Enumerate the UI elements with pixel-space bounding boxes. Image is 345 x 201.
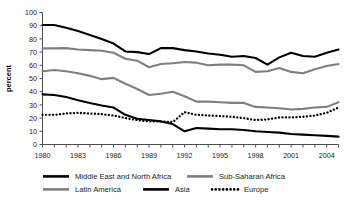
y-axis-title-group: percent [4, 64, 13, 92]
chart-canvas: percent 0102030405060708090100 198019831… [0, 0, 345, 201]
series-line [43, 48, 339, 73]
legend-item: Middle East and North Africa [43, 172, 172, 181]
y-axis-ticks-group: 0102030405060708090100 [25, 8, 43, 149]
y-tick-label: 70 [29, 48, 37, 57]
x-tick-label: 1998 [248, 151, 264, 160]
x-tick-label: 1983 [70, 151, 86, 160]
legend-group: Middle East and North AfricaSub-Saharan … [43, 172, 286, 194]
series-line [43, 94, 339, 136]
y-tick-label: 0 [33, 140, 37, 149]
y-tick-label: 60 [29, 61, 37, 70]
series-line [43, 25, 339, 65]
x-tick-label: 1995 [212, 151, 228, 160]
legend-label: Europe [244, 185, 269, 194]
y-tick-label: 30 [29, 101, 37, 110]
y-tick-label: 50 [29, 74, 37, 83]
legend-label: Sub-Saharan Africa [219, 172, 286, 181]
x-tick-label: 2004 [319, 151, 335, 160]
legend-label: Asia [175, 185, 191, 194]
x-tick-label: 1992 [177, 151, 193, 160]
y-tick-label: 10 [29, 127, 37, 136]
x-tick-label: 1980 [35, 151, 51, 160]
legend-label: Middle East and North Africa [75, 172, 172, 181]
y-axis-title: percent [4, 64, 13, 92]
y-tick-label: 40 [29, 87, 37, 96]
legend-item: Asia [143, 185, 191, 194]
axis-lines-group [43, 13, 339, 145]
series-line [43, 70, 339, 110]
x-tick-label: 1989 [141, 151, 157, 160]
legend-label: Latin America [75, 185, 122, 194]
legend-item: Sub-Saharan Africa [187, 172, 286, 181]
x-tick-label: 2001 [283, 151, 299, 160]
data-series-group [43, 25, 339, 137]
line-chart: percent 0102030405060708090100 198019831… [0, 0, 345, 201]
y-tick-label: 100 [25, 8, 37, 17]
legend-item: Europe [212, 185, 269, 194]
y-tick-label: 80 [29, 35, 37, 44]
x-axis-ticks-group: 198019831986198919921995199820012004 [35, 145, 339, 160]
legend-item: Latin America [43, 185, 122, 194]
y-tick-label: 20 [29, 114, 37, 123]
y-tick-label: 90 [29, 21, 37, 30]
x-tick-label: 1986 [106, 151, 122, 160]
